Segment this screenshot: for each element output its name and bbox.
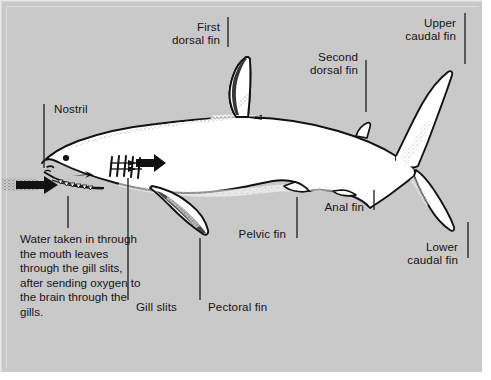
water-flow-caption: Water taken in through the mouth leaves … xyxy=(20,232,144,320)
nostril xyxy=(47,166,54,167)
label-gill-slits: Gill slits xyxy=(136,300,206,313)
second-dorsal-fin xyxy=(356,123,370,138)
label-upper-caudal-fin: Upper caudal fin xyxy=(372,16,456,43)
label-lower-caudal-fin: Lower caudal fin xyxy=(374,240,458,267)
first-dorsal-fin xyxy=(230,57,262,119)
eye xyxy=(63,155,69,161)
label-first-dorsal-fin: First dorsal fin xyxy=(136,20,220,47)
label-second-dorsal-fin: Second dorsal fin xyxy=(274,50,358,77)
shark-illustration xyxy=(0,0,491,380)
label-pectoral-fin: Pectoral fin xyxy=(208,300,300,313)
figure-page: First dorsal fin Second dorsal fin Upper… xyxy=(0,0,491,380)
label-nostril: Nostril xyxy=(54,102,124,115)
label-anal-fin: Anal fin xyxy=(288,200,364,213)
label-pelvic-fin: Pelvic fin xyxy=(208,227,286,240)
caudal-fin xyxy=(396,71,454,231)
